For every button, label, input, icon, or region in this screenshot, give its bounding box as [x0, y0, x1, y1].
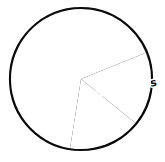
pie-slice-dogs[interactable]	[11, 9, 81, 148]
pie-chart-container: CatsCatsHamstersHamstersBirdsBirdsDogsDo…	[0, 0, 165, 162]
pie-chart-svg: CatsCatsHamstersHamstersBirdsBirdsDogsDo…	[0, 0, 165, 162]
pie-slice-hit-areas	[11, 9, 151, 149]
